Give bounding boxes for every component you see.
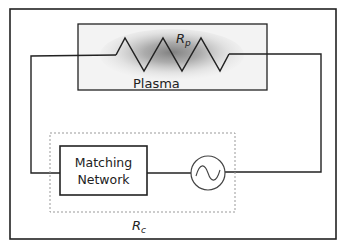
circuit-diagram: Rp Plasma Matching Network Rc — [0, 0, 344, 246]
plasma-label: Plasma — [133, 76, 180, 91]
matching-network-box — [60, 146, 147, 195]
matching-network-line2: Network — [77, 172, 130, 187]
rc-label: Rc — [132, 218, 146, 235]
matching-network-line1: Matching — [75, 155, 132, 170]
ac-source-icon — [191, 156, 225, 190]
